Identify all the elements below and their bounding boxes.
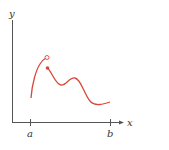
curve-left-piece: [31, 58, 46, 98]
graph-figure: y x a b: [0, 0, 169, 150]
x-axis-label: x: [127, 117, 133, 128]
curve-right-piece: [48, 68, 111, 105]
open-circle-endpoint: [45, 56, 49, 60]
y-axis-label: y: [8, 8, 15, 19]
x-axis-arrow-icon: [119, 121, 124, 125]
tick-label-a: a: [27, 128, 33, 139]
tick-label-b: b: [107, 128, 113, 139]
